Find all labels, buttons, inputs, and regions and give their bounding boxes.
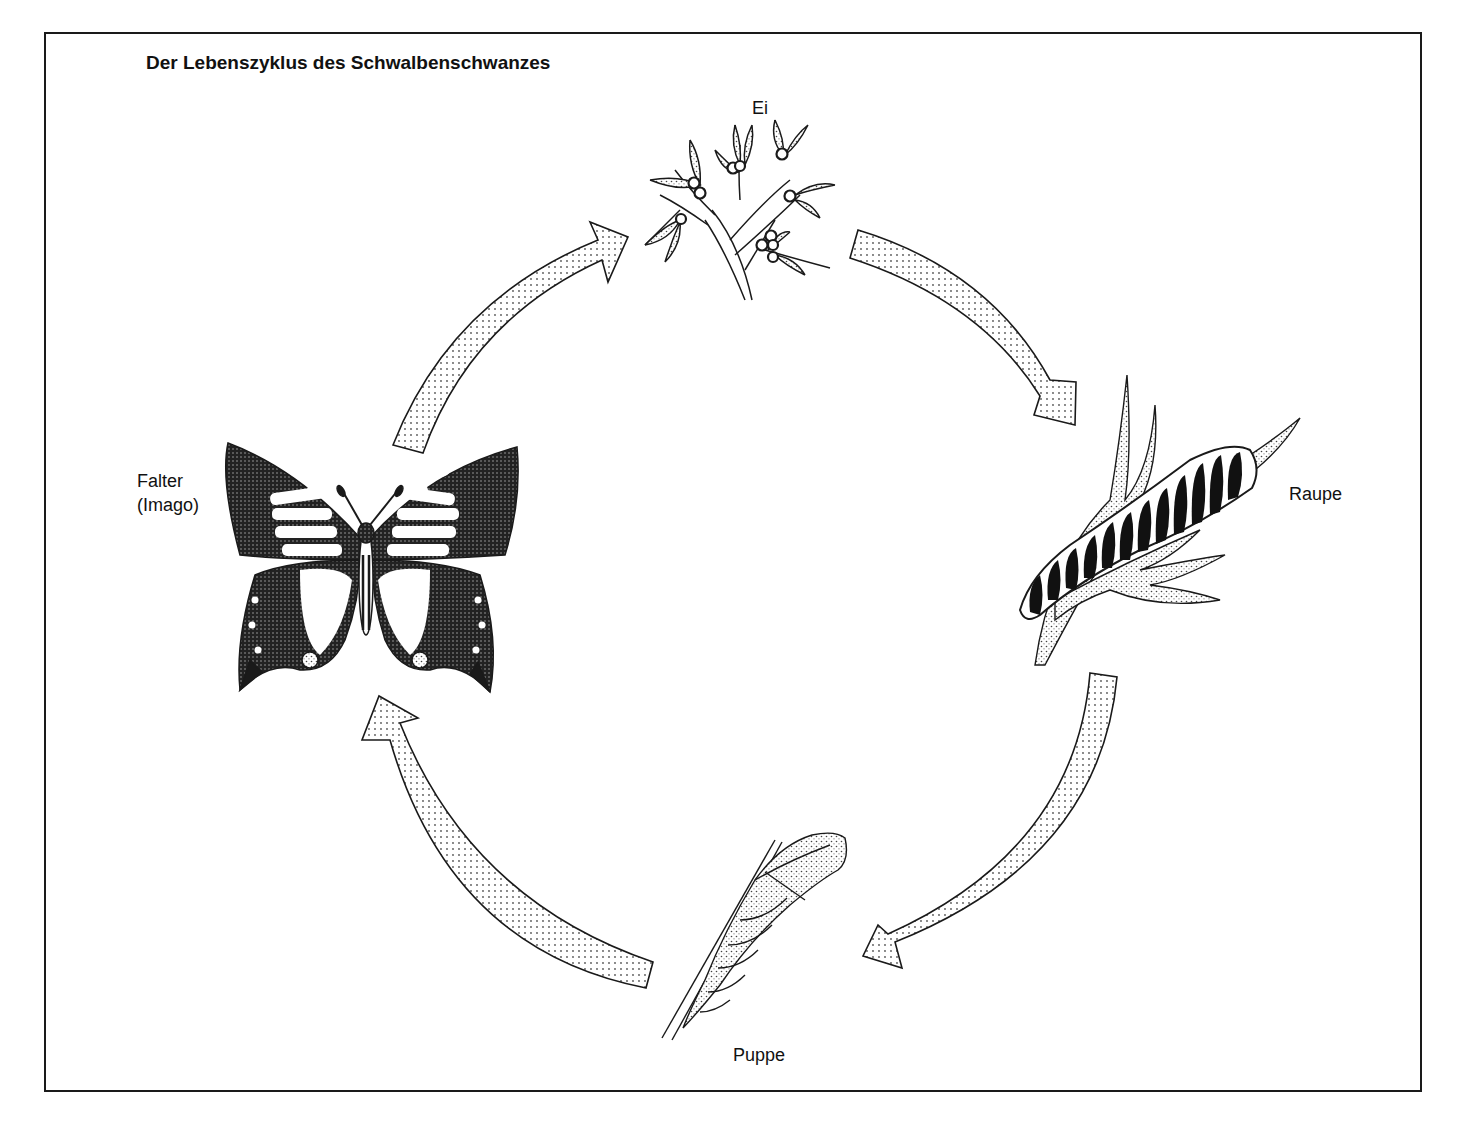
arrow-pupa-to-butterfly [362, 696, 653, 988]
diagram-canvas [0, 0, 1458, 1131]
arrow-egg-to-caterpillar [850, 230, 1076, 425]
arrow-caterpillar-to-pupa [863, 673, 1117, 968]
arrow-butterfly-to-egg [393, 222, 628, 453]
swallowtail-butterfly-icon [226, 443, 518, 692]
chrysalis-icon [662, 833, 846, 1040]
eggs-on-plant-icon [645, 120, 835, 300]
